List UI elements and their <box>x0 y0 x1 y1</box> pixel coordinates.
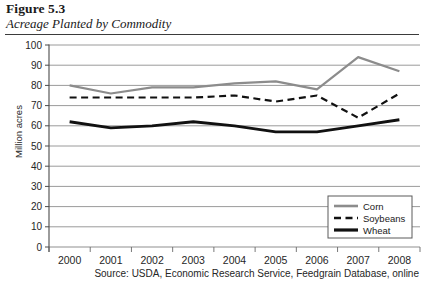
line-chart: 0102030405060708090100200020012002200320… <box>0 0 423 268</box>
x-axis-tick-label: 2005 <box>264 254 288 266</box>
source-note: Source: USDA, Economic Research Service,… <box>0 268 419 279</box>
y-axis-tick-label: 70 <box>31 100 43 111</box>
y-axis-tick-label: 100 <box>25 40 42 51</box>
x-axis-tick-label: 2004 <box>223 254 247 266</box>
legend-label-wheat: Wheat <box>363 225 391 236</box>
legend-label-corn: Corn <box>363 201 384 212</box>
x-axis-tick-label: 2003 <box>182 254 206 266</box>
y-axis-tick-label: 10 <box>31 221 43 232</box>
y-axis-tick-label: 0 <box>36 242 42 253</box>
x-axis-tick-label: 2006 <box>305 254 329 266</box>
y-axis-tick-label: 60 <box>31 120 43 131</box>
x-axis-tick-label: 2000 <box>58 254 82 266</box>
y-axis-tick-label: 30 <box>31 181 43 192</box>
series-line-corn <box>70 57 400 93</box>
x-axis-tick-label: 2008 <box>388 254 412 266</box>
y-axis-tick-label: 90 <box>31 60 43 71</box>
y-axis-tick-label: 20 <box>31 201 43 212</box>
legend-label-soybeans: Soybeans <box>363 213 406 224</box>
x-axis-tick-label: 2007 <box>346 254 370 266</box>
y-axis-tick-label: 50 <box>31 141 43 152</box>
figure-container: Figure 5.3 Acreage Planted by Commodity … <box>0 0 423 286</box>
x-axis-tick-label: 2002 <box>140 254 164 266</box>
y-axis-tick-label: 40 <box>31 161 43 172</box>
x-axis-tick-label: 2001 <box>99 254 123 266</box>
y-axis-tick-label: 80 <box>31 80 43 91</box>
